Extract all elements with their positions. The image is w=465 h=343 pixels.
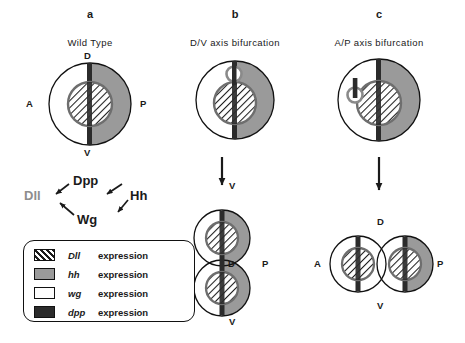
legend-item-hh: hh expression — [34, 267, 148, 281]
panel-letter-b: b — [205, 8, 265, 20]
label-a-anterior: A — [26, 98, 33, 109]
pathway-node-wg: Wg — [77, 212, 97, 227]
panel-letter-c: c — [349, 8, 409, 20]
legend-expr-dpp: expression — [98, 307, 148, 318]
panel-b-disc — [196, 61, 274, 139]
legend-expr-dll: expression — [98, 250, 148, 261]
label-a-ventral: V — [84, 147, 90, 158]
panel-b-result — [194, 210, 251, 316]
pathway-arrows — [56, 184, 128, 215]
legend-item-dpp: dpp expression — [34, 305, 148, 319]
legend-gene-hh: hh — [68, 269, 94, 280]
legend-expr-wg: expression — [98, 288, 148, 299]
legend-gene-dll: Dll — [68, 250, 94, 261]
label-c-anterior: A — [314, 258, 321, 269]
legend-gene-wg: wg — [68, 288, 94, 299]
legend-item-wg: wg expression — [34, 286, 148, 300]
swatch-hh-gray-icon — [34, 268, 55, 280]
label-b-posterior: P — [262, 258, 268, 269]
panel-letter-a: a — [60, 8, 120, 20]
legend-expr-hh: expression — [98, 269, 148, 280]
legend-item-dll: Dll expression — [34, 248, 148, 262]
label-c-ventral: V — [377, 300, 383, 311]
panel-title-b: D/V axis bifurcation — [190, 37, 280, 48]
figure-canvas: a b c Wild Type D/V axis bifurcation A/P… — [0, 0, 465, 343]
label-a-dorsal: D — [84, 50, 91, 61]
arrow-wg-to-dll — [60, 203, 74, 215]
arrow-hh-to-dpp — [107, 184, 122, 194]
panel-a-disc — [49, 63, 132, 145]
legend-gene-dpp: dpp — [68, 307, 94, 318]
legend-box: Dll expression hh expression wg expressi… — [23, 240, 195, 322]
label-b-bottom-ventral: V — [229, 316, 235, 327]
panel-c-disc — [338, 59, 421, 141]
label-b-top-ventral: V — [229, 180, 235, 191]
panel-title-a: Wild Type — [67, 37, 112, 48]
swatch-dll-hatched-icon — [34, 249, 55, 261]
label-a-posterior: P — [140, 98, 146, 109]
swatch-wg-white-icon — [34, 287, 55, 299]
arrow-dpp-to-dll — [56, 184, 69, 194]
label-c-posterior: P — [437, 258, 443, 269]
swatch-dpp-dark-icon — [34, 306, 55, 318]
label-c-dorsal: D — [377, 216, 384, 227]
pathway-node-hh: Hh — [130, 188, 147, 203]
pathway-node-dll: Dll — [24, 188, 41, 203]
panel-c-result — [330, 236, 434, 292]
pathway-node-dpp: Dpp — [73, 173, 98, 188]
panel-title-c: A/P axis bifurcation — [334, 37, 423, 48]
arrow-hh-to-wg — [118, 200, 128, 212]
label-b-dorsal: D — [228, 258, 235, 269]
